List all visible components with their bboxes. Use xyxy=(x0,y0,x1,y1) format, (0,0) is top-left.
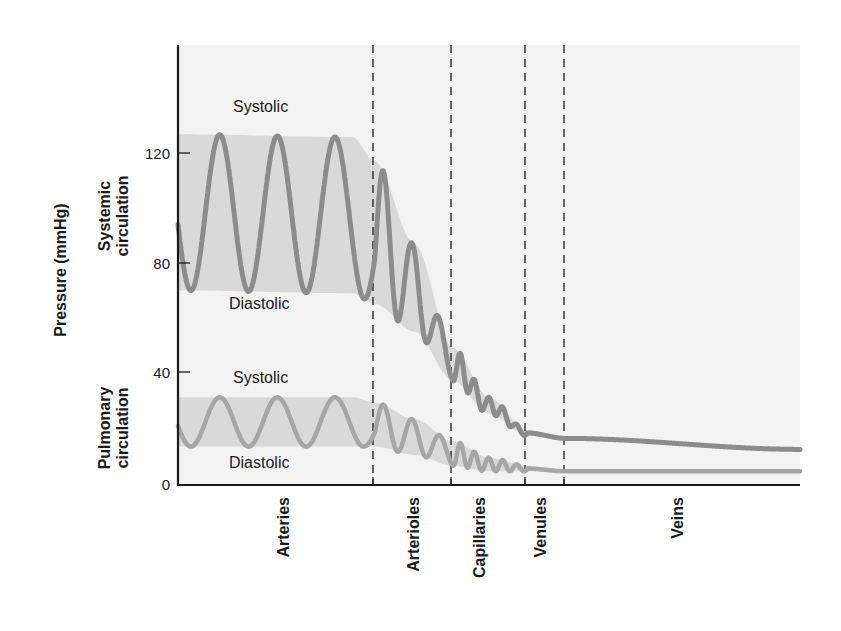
y-axis-title: Pressure (mmHg) xyxy=(52,203,69,336)
region-label-venules: Venules xyxy=(532,497,549,558)
pulmonary-systolic-label: Systolic xyxy=(233,369,288,386)
blood-pressure-chart: 0 40 80 120 Pressure (mmHg) Systemic cir… xyxy=(0,0,841,631)
systemic-label-line1: Systemic xyxy=(96,181,113,251)
systemic-label-line2: circulation xyxy=(114,176,131,257)
systemic-systolic-label: Systolic xyxy=(233,98,288,115)
systemic-diastolic-label: Diastolic xyxy=(229,295,289,312)
y-tick-label-80: 80 xyxy=(153,255,170,272)
y-tick-labels: 0 40 80 120 xyxy=(145,145,170,493)
y-tick-label-120: 120 xyxy=(145,145,170,162)
y-tick-label-0: 0 xyxy=(162,476,170,493)
pulmonary-label-line2: circulation xyxy=(114,388,131,469)
pulmonary-label-line1: Pulmonary xyxy=(96,387,113,470)
pulmonary-diastolic-label: Diastolic xyxy=(229,454,289,471)
region-label-veins: Veins xyxy=(669,497,686,539)
y-tick-label-40: 40 xyxy=(153,364,170,381)
region-label-capillaries: Capillaries xyxy=(471,497,488,578)
region-label-arteries: Arteries xyxy=(275,497,292,558)
region-label-arterioles: Arterioles xyxy=(405,497,422,572)
